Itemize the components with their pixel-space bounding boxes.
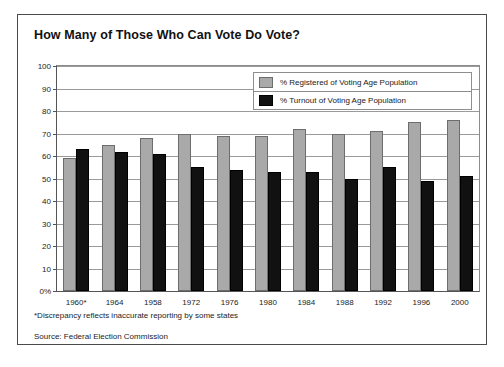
- bar-registered: [217, 136, 230, 291]
- bar-registered: [408, 122, 421, 291]
- y-axis-label: 30: [42, 219, 51, 228]
- bar-group: [95, 66, 133, 291]
- chart-legend: % Registered of Voting Age Population % …: [253, 72, 472, 110]
- y-axis-label: 0%: [39, 287, 51, 296]
- x-axis-label: 1976: [210, 291, 248, 307]
- y-axis-label: 40: [42, 197, 51, 206]
- x-axis-label: 1988: [326, 291, 364, 307]
- bar-registered: [447, 120, 460, 291]
- x-axis-label: 1960*: [57, 291, 95, 307]
- chart-page: How Many of Those Who Can Vote Do Vote? …: [0, 0, 504, 367]
- bar-registered: [255, 136, 268, 291]
- bar-turnout: [153, 154, 166, 291]
- bar-group: [134, 66, 172, 291]
- bar-turnout: [191, 167, 204, 291]
- bar-turnout: [345, 179, 358, 292]
- bar-group: [172, 66, 210, 291]
- legend-label-turnout: % Turnout of Voting Age Population: [280, 96, 406, 105]
- x-axis-label: 1980: [249, 291, 287, 307]
- legend-item-turnout: % Turnout of Voting Age Population: [254, 91, 471, 109]
- x-axis-label: 1996: [402, 291, 440, 307]
- x-axis-label: 1984: [287, 291, 325, 307]
- footnote-discrepancy: *Discrepancy reflects inaccurate reporti…: [34, 311, 238, 320]
- bar-turnout: [230, 170, 243, 292]
- bar-turnout: [383, 167, 396, 291]
- bar-registered: [140, 138, 153, 291]
- bar-turnout: [421, 181, 434, 291]
- bar-registered: [102, 145, 115, 291]
- x-axis-label: 1972: [172, 291, 210, 307]
- x-axis-label: 1964: [95, 291, 133, 307]
- x-axis-label: 1992: [364, 291, 402, 307]
- y-axis-label: 10: [42, 264, 51, 273]
- legend-item-registered: % Registered of Voting Age Population: [254, 73, 471, 91]
- bar-group: [210, 66, 248, 291]
- bar-turnout: [306, 172, 319, 291]
- page-title: How Many of Those Who Can Vote Do Vote?: [34, 28, 300, 42]
- y-axis-label: 100: [38, 62, 51, 71]
- footnote-source: Source: Federal Election Commission: [34, 332, 168, 341]
- y-axis-label: 90: [42, 84, 51, 93]
- bar-group: [57, 66, 95, 291]
- legend-label-registered: % Registered of Voting Age Population: [280, 78, 417, 87]
- x-axis-label: 1958: [134, 291, 172, 307]
- chart-frame: How Many of Those Who Can Vote Do Vote? …: [17, 14, 487, 345]
- bar-registered: [63, 158, 76, 291]
- x-axis-label: 2000: [441, 291, 479, 307]
- bar-turnout: [460, 176, 473, 291]
- x-axis-labels: 1960*19641958197219761980198419881992199…: [57, 291, 479, 307]
- bar-turnout: [268, 172, 281, 291]
- legend-swatch-turnout-icon: [259, 95, 273, 106]
- y-axis-label: 80: [42, 107, 51, 116]
- y-axis-label: 70: [42, 129, 51, 138]
- y-axis-label: 20: [42, 242, 51, 251]
- y-axis-label: 60: [42, 152, 51, 161]
- legend-swatch-registered-icon: [259, 77, 273, 88]
- bar-turnout: [115, 152, 128, 292]
- bar-registered: [370, 131, 383, 291]
- bar-turnout: [76, 149, 89, 291]
- bar-registered: [293, 129, 306, 291]
- bar-registered: [332, 134, 345, 292]
- y-axis-label: 50: [42, 174, 51, 183]
- bar-registered: [178, 134, 191, 292]
